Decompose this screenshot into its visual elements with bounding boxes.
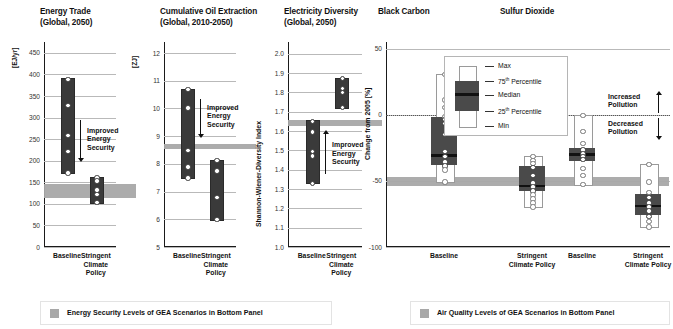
gridline: [44, 225, 116, 226]
data-point: [530, 165, 535, 170]
gridline: [288, 228, 362, 229]
decreased-pollution-arrow: [658, 118, 659, 137]
gridline: [44, 53, 116, 54]
legend-label-p25: 25th Percentile: [498, 107, 542, 115]
gridline: [44, 204, 116, 205]
gridline: [164, 247, 236, 248]
data-point: [65, 170, 70, 175]
y-tick-label: 1.5: [258, 147, 284, 154]
gridline: [164, 219, 236, 220]
gridline: [44, 182, 116, 183]
gridline: [288, 112, 362, 113]
y-tick-label: 450: [14, 49, 40, 56]
y-tick-label: 2.0: [258, 50, 284, 57]
plot-area-energy_trade: 450400350300250200150100500BaselineStrin…: [44, 42, 116, 247]
annotation-arrow-line: [80, 120, 81, 160]
gridline: [288, 247, 362, 248]
caption-energy_security: Energy Security Levels of GEA Scenarios …: [40, 301, 332, 325]
y-tick-label: 1.1: [258, 224, 284, 231]
panel-cumulative_oil_extraction: Cumulative Oil Extraction (Global, 2010-…: [120, 0, 240, 300]
y-tick-label: 1.3: [258, 186, 284, 193]
gridline: [44, 96, 116, 97]
gridline: [164, 53, 236, 54]
legend-dash-max: [485, 66, 494, 67]
plot-area-air-quality: 500-50-100BaselineStringent Climate Poli…: [386, 42, 670, 247]
legend-label-median: Median: [498, 91, 520, 98]
data-point: [214, 217, 219, 222]
legend-dash-p25: [485, 111, 494, 112]
data-point: [580, 129, 585, 134]
legend-dash-median: [485, 95, 494, 96]
caption-air_quality: Air Quality Levels of GEA Scenarios in B…: [410, 301, 670, 325]
data-point: [214, 168, 219, 173]
x-tick-label: Stringent Climate Policy: [612, 252, 673, 269]
y-tick-label: 11: [134, 77, 160, 84]
data-point: [94, 200, 99, 205]
y-tick-label: 1.7: [258, 108, 284, 115]
gridline: [288, 73, 362, 74]
y-axis-label-cumulative_oil_extraction: [ZJ]: [131, 56, 138, 68]
caption-swatch-air_quality: [420, 309, 429, 318]
annotation-arrow-line: [325, 134, 326, 175]
y-tick-label: 50: [14, 222, 40, 229]
gridline: [44, 74, 116, 75]
decreased-pollution-arrow-head: [656, 136, 662, 140]
legend-dash-min: [485, 126, 494, 127]
data-point: [65, 133, 70, 138]
plot-area-cumulative_oil_extraction: 12111098765BaselineStringent Climate Pol…: [164, 42, 236, 247]
y-tick-label: 150: [14, 179, 40, 186]
gridline: [44, 118, 116, 119]
decreased-pollution-label: Decreased Pollution: [608, 120, 656, 137]
y-tick-label: 50: [360, 45, 382, 52]
data-point: [646, 179, 651, 184]
annotation-arrow-line: [200, 99, 201, 135]
x-tick-label: Stringent Climate Policy: [70, 252, 122, 278]
data-point: [580, 182, 585, 187]
data-point: [646, 208, 651, 213]
data-point: [94, 178, 99, 183]
gridline: [386, 49, 670, 50]
data-point: [185, 148, 190, 153]
y-tick-label: 400: [14, 71, 40, 78]
y-tick-label: 0: [14, 244, 40, 251]
data-point: [340, 105, 345, 110]
data-point: [530, 204, 535, 209]
y-tick-label: 300: [14, 114, 40, 121]
y-tick-label: -50: [360, 177, 382, 184]
data-point: [65, 149, 70, 154]
y-tick-label: 9: [134, 133, 160, 140]
y-tick-label: 1.4: [258, 166, 284, 173]
y-tick-label: 1.8: [258, 89, 284, 96]
subpanel-title-1: Sulfur Dioxide: [500, 7, 620, 18]
annotation-arrow-head-down: [198, 134, 204, 138]
data-point: [580, 141, 585, 146]
data-point: [310, 129, 315, 134]
gridline: [288, 54, 362, 55]
annotation-arrow-head-up: [323, 130, 329, 134]
legend-symbol-median: [455, 93, 479, 96]
y-tick-label: 200: [14, 157, 40, 164]
data-point: [214, 158, 219, 163]
y-tick-label: 5: [134, 244, 160, 251]
y-tick-label: 0: [360, 111, 382, 118]
y-tick-label: 1.6: [258, 128, 284, 135]
data-point: [185, 87, 190, 92]
y-tick-label: 1.9: [258, 70, 284, 77]
gridline: [386, 247, 670, 248]
caption-text-energy_security: Energy Security Levels of GEA Scenarios …: [67, 309, 263, 317]
data-point: [442, 179, 447, 184]
y-axis-line: [386, 42, 387, 247]
data-point: [580, 166, 585, 171]
figure-root: Energy Trade (Global, 2050)[EJ/yr]450400…: [0, 0, 673, 329]
y-tick-label: 7: [134, 188, 160, 195]
panel-energy_trade: Energy Trade (Global, 2050)[EJ/yr]450400…: [0, 0, 120, 300]
gridline: [44, 247, 116, 248]
data-point: [310, 181, 315, 186]
y-tick-label: 100: [14, 200, 40, 207]
legend-label-p75: 75th Percentile: [498, 77, 542, 85]
data-point: [214, 195, 219, 200]
y-tick-label: 10: [134, 105, 160, 112]
data-point: [65, 103, 70, 108]
x-tick-label: Stringent Climate Policy: [190, 252, 242, 278]
subpanel-title-0: Black Carbon: [378, 7, 498, 18]
